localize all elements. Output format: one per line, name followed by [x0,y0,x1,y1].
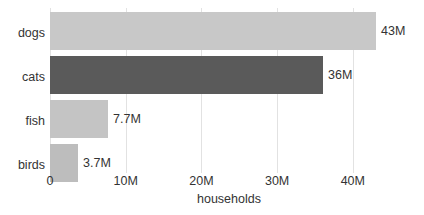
bar-value-fish: 7.7M [113,113,141,126]
bar-row-fish: 7.7M [50,100,384,138]
xtick-label-30m: 30M [265,175,289,188]
xtick-label-20m: 20M [189,175,213,188]
bar-value-cats: 36M [328,69,352,82]
xtick-label-40m: 40M [341,175,365,188]
bar-chart: 43M 36M 7.7M 3.7M dogs cats fish birds 0… [0,0,424,215]
bar-fish[interactable] [50,100,108,138]
bar-value-dogs: 43M [381,25,405,38]
category-label-fish: fish [1,115,45,128]
bar-dogs[interactable] [50,12,376,50]
x-axis-title-text: households [197,193,261,206]
category-label-cats: cats [1,71,45,84]
xtick-label-0: 0 [47,175,54,188]
category-label-dogs: dogs [1,27,45,40]
category-label-birds: birds [1,159,45,172]
xtick-label-10m: 10M [114,175,138,188]
bar-cats[interactable] [50,56,323,94]
x-axis-title: households [0,193,424,206]
plot-area: 43M 36M 7.7M 3.7M [50,8,384,173]
bar-row-cats: 36M [50,56,384,94]
bar-value-birds: 3.7M [83,157,111,170]
category-axis: dogs cats fish birds [0,8,45,173]
bar-row-dogs: 43M [50,12,384,50]
